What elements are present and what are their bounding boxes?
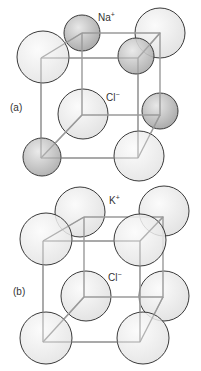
na-ion-sphere <box>118 38 154 74</box>
cl-ion-sphere <box>117 312 169 364</box>
panel-label: (a) <box>10 102 22 113</box>
anion-label: Cl− <box>108 271 122 283</box>
anion-label: Cl− <box>106 91 120 103</box>
panel-label: (b) <box>13 286 25 297</box>
crystal-lattice-diagram: Na+ Cl− (a) <box>0 0 201 371</box>
panel-a-nacl: Na+ Cl− (a) <box>10 8 185 181</box>
panel-b-kcl: K+ Cl− (b) <box>13 186 189 364</box>
cation-label: K+ <box>109 194 120 206</box>
cation-label: Na+ <box>98 11 115 23</box>
